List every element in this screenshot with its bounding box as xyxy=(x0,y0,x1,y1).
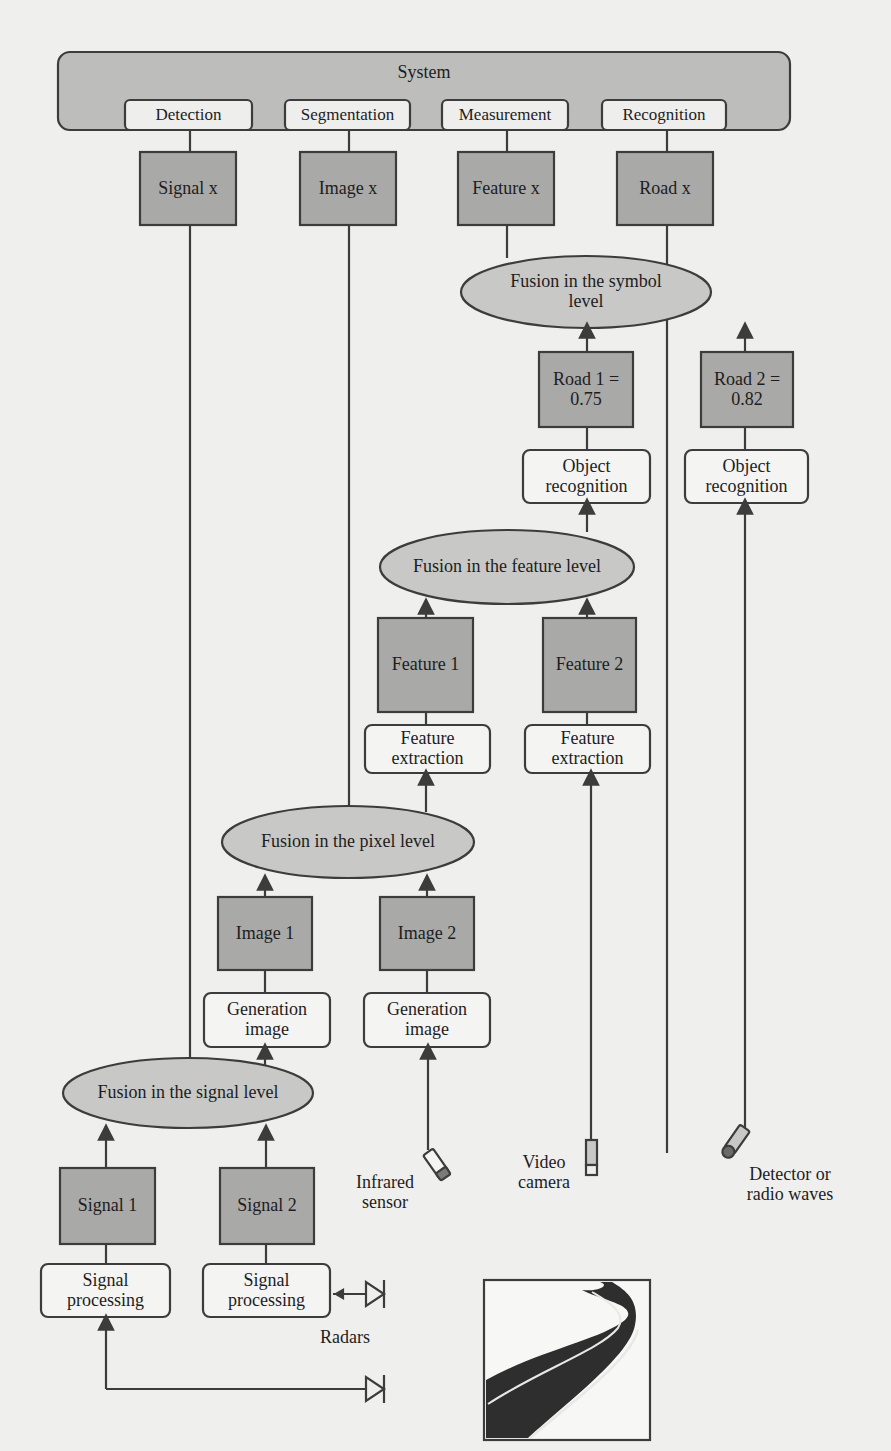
signal-x-box: Signal x xyxy=(140,152,236,225)
signal-2-box: Signal 2 xyxy=(220,1168,314,1244)
video-camera-icon xyxy=(586,1140,597,1175)
fusion-feature-ellipse: Fusion in the feature level xyxy=(410,537,604,597)
generation-image-1: Generation image xyxy=(212,993,322,1047)
radars-label: Radars xyxy=(300,1325,390,1351)
feature-extraction-1: Feature extraction xyxy=(375,725,480,773)
tab-detection-label: Detection xyxy=(125,100,252,130)
system-label: System xyxy=(58,60,790,86)
tab-recognition-label: Recognition xyxy=(602,100,726,130)
infrared-sensor-icon xyxy=(423,1149,451,1181)
road-2-box: Road 2 = 0.82 xyxy=(706,352,788,427)
signal-processing-2: Signal processing xyxy=(215,1264,318,1317)
road-image xyxy=(484,1280,650,1440)
object-recognition-2: Object recognition xyxy=(690,450,803,503)
tab-measurement-label: Measurement xyxy=(442,100,568,130)
object-recognition-1: Object recognition xyxy=(528,450,645,503)
signal-1-box: Signal 1 xyxy=(60,1168,155,1244)
feature-extraction-2: Feature extraction xyxy=(535,725,640,773)
feature-x-box: Feature x xyxy=(458,152,554,225)
infrared-sensor-label: Infrared sensor xyxy=(345,1168,425,1218)
fusion-symbol-ellipse: Fusion in the symbol level xyxy=(500,262,672,322)
signal-processing-1: Signal processing xyxy=(55,1264,156,1317)
road-1-box: Road 1 = 0.75 xyxy=(545,352,627,427)
fusion-signal-ellipse: Fusion in the signal level xyxy=(88,1063,288,1123)
detector-icon xyxy=(720,1125,750,1161)
road-x-box: Road x xyxy=(617,152,713,225)
tab-segmentation-label: Segmentation xyxy=(285,100,410,130)
video-camera-label: Video camera xyxy=(508,1148,580,1198)
feature-1-box: Feature 1 xyxy=(378,618,473,712)
fusion-pixel-ellipse: Fusion in the pixel level xyxy=(254,812,442,872)
image-2-box: Image 2 xyxy=(380,897,474,970)
image-1-box: Image 1 xyxy=(218,897,312,970)
detector-label: Detector or radio waves xyxy=(735,1160,845,1210)
generation-image-2: Generation image xyxy=(372,993,482,1047)
feature-2-box: Feature 2 xyxy=(543,618,636,712)
image-x-box: Image x xyxy=(300,152,396,225)
